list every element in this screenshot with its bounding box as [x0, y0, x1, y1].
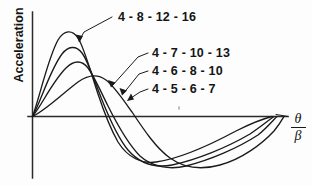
series-label-4-7-10-13: 4 - 7 - 10 - 13: [152, 47, 230, 60]
leader-line-4-7-10-13: [112, 53, 148, 86]
series-label-4-8-12-16: 4 - 8 - 12 - 16: [118, 11, 196, 24]
x-axis-numerator: θ: [286, 112, 310, 126]
y-axis-title: Acceleration: [12, 3, 26, 87]
acceleration-chart-figure: Acceleration θ β 4 - 8 - 12 - 16 4 - 7 -…: [0, 0, 312, 186]
x-axis-denominator: β: [286, 129, 310, 143]
leader-line-4-8-12-16: [79, 17, 112, 41]
leader-arrow-4-7-10-13: [108, 80, 116, 88]
x-axis-title: θ β: [286, 112, 310, 143]
scan-artifact-speck: [178, 106, 180, 110]
series-label-4-5-6-7: 4 - 5 - 6 - 7: [152, 83, 216, 96]
series-label-4-6-8-10: 4 - 6 - 8 - 10: [152, 65, 223, 78]
